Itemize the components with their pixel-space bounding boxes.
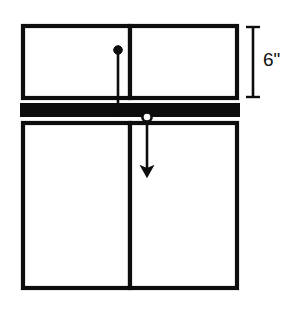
upper-panel-right (130, 26, 237, 98)
lower-panel-assembly (23, 123, 237, 288)
upper-load-arrow-origin-dot (114, 46, 123, 55)
diagram-canvas: 6" (0, 0, 285, 327)
lower-load-arrow-origin-dot (142, 112, 151, 121)
lower-panel-left (23, 123, 130, 288)
solid-bar (20, 103, 240, 117)
dimension-label: 6" (263, 50, 280, 69)
dimension-line-vertical (246, 26, 260, 98)
upper-panel-assembly (23, 26, 237, 98)
upper-panel-left (23, 26, 130, 98)
diagram-svg (0, 0, 285, 327)
